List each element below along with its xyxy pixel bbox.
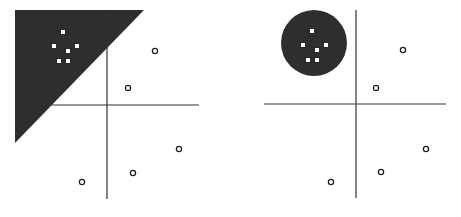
- square-marker-icon: [315, 58, 320, 63]
- square-marker-icon: [57, 59, 62, 64]
- circle-marker-icon: [373, 85, 378, 90]
- circle-marker-icon: [400, 47, 405, 52]
- square-marker-icon: [310, 29, 315, 34]
- square-marker-icon: [66, 49, 71, 54]
- left-panel-triangle-region: [15, 10, 199, 199]
- square-marker-icon: [306, 58, 311, 63]
- circle-marker-icon: [328, 179, 333, 184]
- square-marker-icon: [324, 43, 329, 48]
- square-marker-icon: [75, 44, 80, 49]
- circle-marker-icon: [378, 169, 383, 174]
- circle-marker-icon: [79, 179, 84, 184]
- square-marker-icon: [301, 43, 306, 48]
- square-marker-icon: [315, 48, 320, 53]
- circle-marker-icon: [176, 146, 181, 151]
- shaded-circle-region: [281, 10, 347, 76]
- circle-marker-icon: [130, 170, 135, 175]
- square-marker-icon: [66, 59, 71, 64]
- right-panel-circle-region: [264, 10, 446, 198]
- circle-marker-icon: [152, 48, 157, 53]
- circle-marker-icon: [423, 146, 428, 151]
- circle-marker-icon: [125, 85, 130, 90]
- shaded-triangle-region: [15, 10, 144, 143]
- square-marker-icon: [61, 30, 66, 35]
- decision-region-diagram: [0, 0, 461, 217]
- square-marker-icon: [52, 44, 57, 49]
